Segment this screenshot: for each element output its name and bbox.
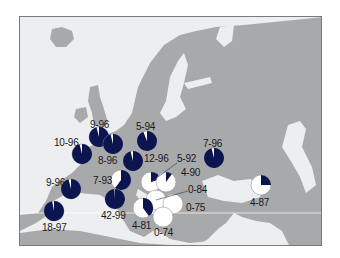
pie-label: 7-93 [93, 176, 112, 186]
pie-label: 9-96 [46, 178, 65, 188]
pie-label: 5-92 [177, 154, 196, 164]
pie-marker [111, 170, 131, 190]
pie-marker [251, 175, 271, 195]
pie-marker [44, 201, 64, 221]
pie-marker [123, 151, 143, 171]
pie-label: 12-96 [144, 154, 169, 164]
pie-label: 0-84 [188, 185, 207, 195]
pie-label: 42-99 [101, 211, 126, 221]
pie-label: 10-96 [54, 138, 79, 148]
pie-marker [156, 172, 176, 192]
pie-label: 4-90 [181, 168, 200, 178]
pie-label: 0-74 [154, 228, 173, 238]
pie-marker [204, 148, 224, 168]
pie-label: 18-97 [42, 223, 67, 233]
pie-label: 0-75 [186, 203, 205, 213]
pie-marker [137, 131, 157, 151]
europe-map: 9-968-965-9410-9612-965-924-907-937-969-… [19, 16, 322, 246]
pie-label: 5-94 [136, 122, 155, 132]
pie-label: 8-96 [98, 156, 117, 166]
pie-label: 4-81 [132, 221, 151, 231]
pie-label: 7-96 [203, 139, 222, 149]
pie-marker [105, 189, 125, 209]
pie-label: 4-87 [250, 198, 269, 208]
pie-label: 9-96 [90, 120, 109, 130]
pie-marker [103, 134, 123, 154]
pie-marker [133, 198, 153, 218]
pie-marker [153, 207, 173, 227]
land-shapes [20, 17, 322, 246]
